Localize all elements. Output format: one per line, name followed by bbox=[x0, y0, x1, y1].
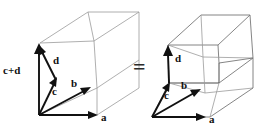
right-edge-lower-right-diag bbox=[219, 58, 253, 83]
left-edge-vert-mid bbox=[94, 41, 97, 88]
left-figure: a b c d bbox=[3, 12, 139, 123]
left-label-d: d bbox=[53, 54, 59, 66]
left-vector-a-arrowhead bbox=[88, 111, 98, 119]
right-edge-upper-mid-vert bbox=[218, 45, 219, 63]
right-edge-upper-inner-diag bbox=[168, 45, 203, 57]
right-edge-lower-inner-horiz bbox=[205, 88, 253, 93]
left-vector-b-arrowhead bbox=[80, 87, 91, 95]
right-vector-b-arrowhead bbox=[190, 89, 201, 97]
left-label-b: b bbox=[71, 77, 77, 89]
right-edge-upper-right-vert bbox=[250, 15, 253, 58]
left-label-c-plus-d: c+d bbox=[3, 64, 20, 76]
right-vector-d: d bbox=[163, 45, 181, 83]
right-edge-lower-inner-vert bbox=[203, 57, 205, 93]
right-edge-upper-inner-vert bbox=[201, 15, 203, 57]
right-label-c: c bbox=[164, 89, 169, 101]
vector-parallelepiped-diagram: a b c d bbox=[0, 0, 266, 128]
right-figure: a b c d bbox=[152, 15, 253, 125]
right-vector-d-shaft bbox=[168, 54, 169, 83]
left-vector-b: b bbox=[39, 77, 91, 115]
right-edge-upper-left-back bbox=[168, 15, 201, 45]
right-vector-d-arrowhead bbox=[163, 45, 173, 56]
right-label-d: d bbox=[175, 52, 181, 64]
right-edge-upper-right-back bbox=[218, 15, 250, 45]
left-edge-top-front bbox=[40, 41, 94, 43]
right-vector-a: a bbox=[152, 113, 215, 125]
left-label-a: a bbox=[101, 111, 107, 123]
right-edge-mid-horizontal bbox=[203, 57, 253, 58]
equals-sign: = bbox=[133, 54, 146, 79]
right-label-a: a bbox=[209, 113, 215, 125]
right-vector-a-arrowhead bbox=[196, 113, 206, 121]
left-label-c: c bbox=[52, 85, 57, 97]
figure-container: a b c d bbox=[0, 0, 266, 128]
right-box-edges bbox=[152, 15, 253, 117]
left-vector-c-plus-d: c+d bbox=[3, 43, 44, 115]
left-edge-top-back-left bbox=[40, 12, 88, 43]
left-edge-top-right bbox=[94, 12, 139, 41]
right-label-b: b bbox=[181, 79, 187, 91]
left-edge-diag-back bbox=[88, 12, 94, 41]
